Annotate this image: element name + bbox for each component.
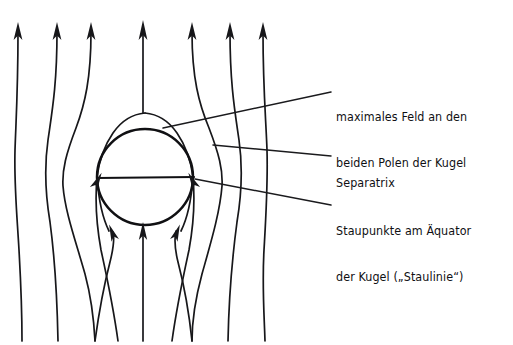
flow-line-2 [46, 32, 58, 341]
flow-line-1 [15, 32, 22, 341]
annotation-line: der Kugel („Staulinie“) [336, 269, 471, 284]
leader-line-separatrix [213, 145, 331, 156]
stagnation-arrowheads [90, 171, 200, 191]
annotation-line: maximales Feld an den [336, 109, 467, 124]
annotation-staupunkte: Staupunkte am Äquator der Kugel („Stauli… [336, 192, 471, 315]
separatrix-branch-upper-left [97, 113, 145, 177]
flow-line-lower-left-oblique [95, 232, 114, 341]
leader-line-maximales-feld [163, 92, 331, 128]
arrow-up-icon-south-right [170, 223, 184, 242]
flow-line-6 [192, 32, 222, 341]
field-line-diagram: maximales Feld an den beiden Polen der K… [0, 0, 513, 345]
flow-line-8 [263, 32, 267, 341]
annotation-line: Separatrix [336, 175, 395, 190]
flow-line-3 [63, 32, 95, 341]
leader-line-staupunkte [195, 179, 331, 205]
equator-stagnation-line [97, 177, 194, 178]
annotation-line: Staupunkte am Äquator [336, 223, 471, 238]
